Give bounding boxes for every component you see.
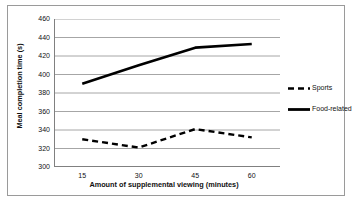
y-tick-label: 460: [24, 15, 50, 23]
y-tick-label: 420: [24, 52, 50, 60]
plot-area: [54, 19, 280, 167]
chart-legend: Sports Food-related: [288, 82, 346, 122]
data-series: [82, 44, 252, 148]
chart-canvas: [54, 19, 280, 167]
series-line-sports: [82, 129, 252, 147]
gridlines: [54, 19, 280, 167]
y-tick-label: 440: [24, 34, 50, 42]
x-tick-label: 45: [191, 172, 199, 180]
y-tick-label: 400: [24, 71, 50, 79]
chart-figure: Meal completion time (s) 300320340360380…: [7, 5, 345, 196]
legend-label-food-related: Food-related: [312, 104, 352, 114]
series-line-food-related: [82, 44, 252, 84]
y-tick-label: 380: [24, 89, 50, 97]
y-tick-label: 360: [24, 108, 50, 116]
y-tick-label: 300: [24, 163, 50, 171]
y-tick-label: 320: [24, 145, 50, 153]
y-axis-tick-labels: 300320340360380400420440460: [24, 6, 50, 197]
x-axis-title: Amount of supplemental viewing (minutes): [42, 180, 286, 189]
legend-swatch-dashed-icon: [288, 87, 310, 90]
x-tick-label: 30: [135, 172, 143, 180]
legend-label-sports: Sports: [312, 83, 332, 93]
x-tick-label: 15: [78, 172, 86, 180]
legend-swatch-solid-icon: [288, 108, 310, 111]
x-tick-label: 60: [248, 172, 256, 180]
y-tick-label: 340: [24, 126, 50, 134]
